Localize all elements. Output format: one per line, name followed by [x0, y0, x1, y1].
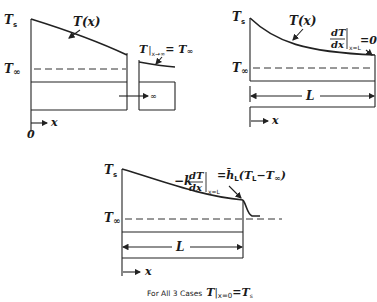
panel-adiabatic-tip: Ts T∞ T(x) dT dx x=L =0 L x [232, 10, 377, 127]
tinf-label: T∞ [4, 62, 20, 77]
bc-arrow [229, 186, 241, 198]
tinf-label: T∞ [232, 61, 248, 76]
svg-text:dT: dT [331, 27, 347, 38]
curve-label-arrow [69, 30, 80, 38]
curve-label: T(x) [289, 14, 316, 28]
ts-label: Ts [232, 10, 245, 26]
bc-convective-label: −k dT dx x=L =h̄L(TL−T∞) [174, 168, 286, 195]
panel-infinite-fin: Ts T∞ T(x) ∞ T|x→∞= T∞ x 0 [4, 13, 193, 141]
panel-convective-tip: Ts T∞ −k dT dx x=L =h̄L(TL−T∞) L x [104, 163, 286, 278]
svg-text:dx: dx [189, 182, 203, 193]
caption: For All 3 CasesT|x=0=Ts [147, 286, 253, 300]
tinf-label: T∞ [104, 211, 120, 226]
svg-text:dT: dT [189, 170, 205, 181]
bc-infinite-label: T|x→∞= T∞ [139, 43, 193, 57]
svg-text:=0: =0 [360, 34, 377, 47]
x-axis-label: x [271, 114, 279, 127]
x-axis-label: x [50, 116, 58, 129]
bc-arrow [156, 57, 162, 64]
curve-label: T(x) [73, 15, 100, 29]
length-label: L [175, 240, 184, 254]
ts-label: Ts [104, 163, 117, 179]
length-label: L [305, 89, 314, 103]
fin-diagram: Ts T∞ T(x) ∞ T|x→∞= T∞ x 0 Ts [0, 0, 377, 302]
svg-text:x=L: x=L [208, 188, 221, 195]
svg-text:dx: dx [331, 39, 345, 50]
origin-label: 0 [27, 128, 35, 141]
tip-boundary-layer-curve [243, 200, 260, 216]
bc-adiabatic-label: dT dx x=L =0 [330, 27, 377, 51]
ts-label: Ts [4, 13, 17, 29]
curve-label-arrow [293, 29, 303, 40]
svg-text:=h̄L(TL−T∞): =h̄L(TL−T∞) [217, 168, 286, 183]
length-infinity-label: ∞ [150, 92, 157, 101]
x-axis-label: x [144, 265, 152, 278]
